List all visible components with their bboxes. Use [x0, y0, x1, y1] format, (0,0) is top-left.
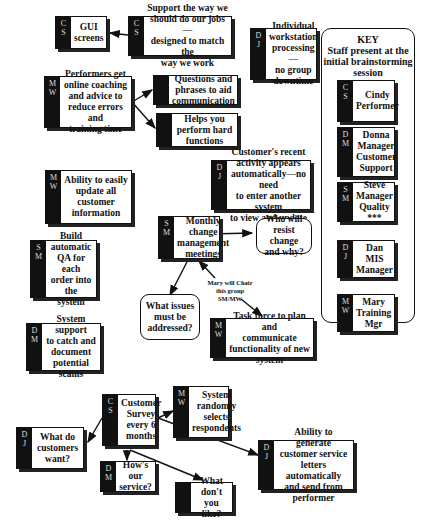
- node-what-customers-want: D J What do customers want?: [16, 427, 84, 469]
- initials-tag: D M: [101, 462, 116, 491]
- key-member-label: Donna Manager Customer Support: [353, 128, 399, 176]
- node-label: What do customers want?: [32, 428, 83, 468]
- key-member-label: Steve Manager Quality ***: [353, 183, 396, 221]
- node-helps-perform: Helps you perform hard functions: [156, 113, 238, 147]
- node-support-way: C S Support the way we should do our job…: [128, 16, 232, 56]
- initials-tag: [154, 76, 169, 104]
- node-monthly-meetings: S M Monthly change management meetings: [158, 216, 220, 259]
- node-label: Ability to easily update all customer in…: [61, 171, 131, 223]
- key-member-label: Dan MIS Manager: [353, 241, 396, 277]
- node-label: Customer's recent activity appears autom…: [227, 161, 310, 209]
- key-member-label: Cindy Performer: [353, 81, 402, 121]
- key-member-label: Mary Training Mgr: [353, 295, 394, 331]
- node-questions-phrases: Questions and phrases to aid communicati…: [153, 75, 238, 105]
- node-build-qa: S M Build automatic QA for each order in…: [30, 240, 97, 298]
- initials-tag: D J: [259, 441, 274, 489]
- node-hows-service: D M How's our service?: [100, 461, 156, 492]
- node-label: Helps you perform hard functions: [172, 114, 237, 146]
- key-member-steve: S M Steve Manager Quality ***: [337, 182, 395, 222]
- key-member-dan: D J Dan MIS Manager: [337, 240, 395, 278]
- initials-tag: C S: [338, 81, 353, 121]
- initials-tag: M W: [338, 295, 353, 331]
- node-label: Build automatic QA for each order into t…: [46, 241, 96, 297]
- initials-tag: S M: [159, 217, 174, 258]
- node-label: Questions and phrases to aid communicati…: [169, 76, 238, 104]
- node-label: Individual workstation processing— no gr…: [266, 29, 321, 79]
- node-label: Task force to plan and communicate funct…: [226, 319, 313, 357]
- initials-tag: M W: [174, 387, 189, 437]
- node-individual-workstation: D J Individual workstation processing— n…: [250, 28, 317, 80]
- node-task-force: M W Task force to plan and communicate f…: [210, 318, 314, 358]
- initials-tag: M W: [45, 77, 60, 127]
- initials-tag: C S: [129, 17, 144, 55]
- node-label: What don't you like?: [191, 483, 232, 512]
- initials-tag: M W: [46, 171, 61, 223]
- initials-tag: S M: [338, 183, 353, 221]
- initials-tag: S M: [31, 241, 46, 297]
- node-label: Ability to generate customer service let…: [274, 441, 353, 489]
- node-random-respondents: M W System randomly selects respondents: [173, 386, 229, 438]
- node-label: Support the way we should do our jobs— d…: [144, 17, 231, 55]
- initials-tag: D J: [17, 428, 32, 468]
- node-update-customer: M W Ability to easily update all custome…: [45, 170, 132, 224]
- initials-tag: D J: [212, 161, 227, 209]
- node-performers-coaching: M W Performers get online coaching and a…: [44, 76, 132, 128]
- node-label: Monthly change management meetings: [174, 217, 232, 258]
- key-member-mary: M W Mary Training Mgr: [337, 294, 395, 332]
- node-recent-activity: D J Customer's recent activity appears a…: [211, 160, 311, 210]
- node-label: GUI screens: [71, 17, 106, 48]
- initials-tag: [157, 114, 172, 146]
- key-member-cindy: C S Cindy Performer: [337, 80, 395, 122]
- initials-tag: D J: [251, 29, 266, 79]
- node-label: Performers get online coaching and advic…: [60, 77, 131, 127]
- node-label: System support to catch and document pot…: [42, 324, 100, 370]
- initials-tag: D M: [27, 324, 42, 370]
- initials-tag: [176, 483, 191, 512]
- node-who-resist: Who will resist change and why?: [256, 218, 312, 254]
- node-what-dont-like: What don't you like?: [175, 482, 233, 513]
- node-label: How's our service?: [116, 462, 155, 491]
- node-what-issues: What issues must be addressed?: [140, 294, 200, 340]
- key-member-donna: D M Donna Manager Customer Support: [337, 127, 395, 177]
- initials-tag: M W: [211, 319, 226, 357]
- initials-tag: C S: [103, 395, 118, 445]
- node-customer-survey: C S Customer Survey every 6 months: [102, 394, 156, 446]
- annotation-mary-chair: Mary will Chair this group SM/MW: [200, 279, 260, 303]
- node-gui-screens: C S GUI screens: [55, 16, 107, 49]
- node-label: Customer Survey every 6 months: [118, 395, 164, 445]
- initials-tag: D J: [338, 241, 353, 277]
- node-letters: D J Ability to generate customer service…: [258, 440, 354, 490]
- node-label: System randomly selects respondents: [189, 387, 244, 437]
- initials-tag: C S: [56, 17, 71, 48]
- node-scams: D M System support to catch and document…: [26, 323, 101, 371]
- initials-tag: D M: [338, 128, 353, 176]
- key-title: KEY Staff present at the initial brainst…: [321, 34, 415, 78]
